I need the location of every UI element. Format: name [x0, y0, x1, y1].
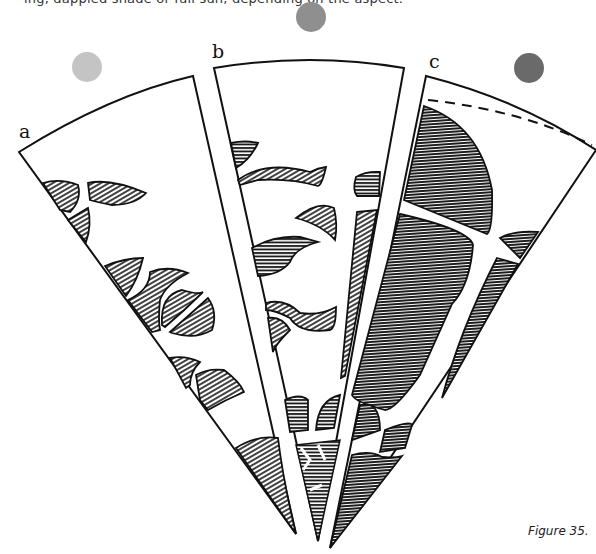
figure-diagram — [0, 0, 596, 554]
light-circle-icon — [72, 52, 102, 82]
panel-label-c: c — [429, 50, 440, 72]
panel-label-b: b — [212, 40, 224, 62]
dark-circle-icon — [514, 53, 544, 83]
panel-label-a: a — [19, 120, 30, 142]
medium-circle-icon — [296, 2, 326, 32]
figure-caption: Figure 35. — [528, 524, 589, 538]
